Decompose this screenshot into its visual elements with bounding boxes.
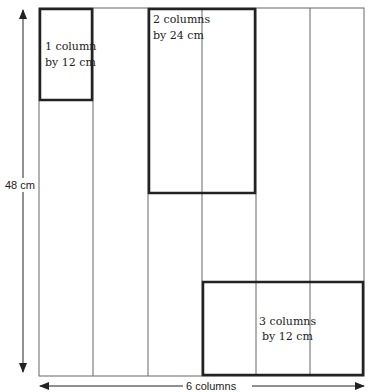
block-1-label-line1: 1 column <box>45 40 96 53</box>
block-3-label-line2: by 12 cm <box>262 330 313 343</box>
height-label: 48 cm <box>5 179 35 191</box>
block-2-label-line2: by 24 cm <box>153 29 204 42</box>
block-1-label-line2: by 12 cm <box>45 56 96 69</box>
page-grid-diagram: 1 column by 12 cm 2 columns by 24 cm 3 c… <box>0 0 373 392</box>
block-3-columns <box>203 282 363 375</box>
block-2-label-line1: 2 columns <box>153 13 210 26</box>
width-label: 6 columns <box>186 380 237 392</box>
block-3-label-line1: 3 columns <box>259 315 316 328</box>
block-1-column <box>40 9 92 100</box>
